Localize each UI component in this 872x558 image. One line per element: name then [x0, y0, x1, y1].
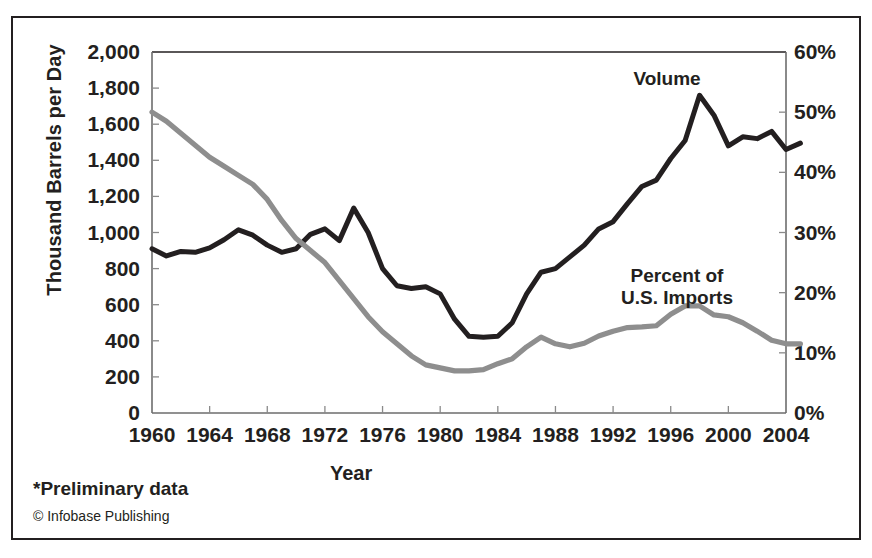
- chart-figure: Thousand Barrels per Day 02004006008001,…: [0, 0, 872, 558]
- series-label-volume: Volume: [602, 68, 732, 90]
- series-label-percent: Percent of U.S. Imports: [592, 265, 762, 309]
- x-axis-title: Year: [330, 462, 372, 485]
- footnote-preliminary: *Preliminary data: [33, 478, 188, 500]
- series-line-percent: [152, 112, 800, 371]
- publisher-name: Infobase Publishing: [43, 508, 169, 524]
- copyright-icon: ©: [33, 508, 43, 524]
- publisher-credit: © Infobase Publishing: [33, 508, 169, 524]
